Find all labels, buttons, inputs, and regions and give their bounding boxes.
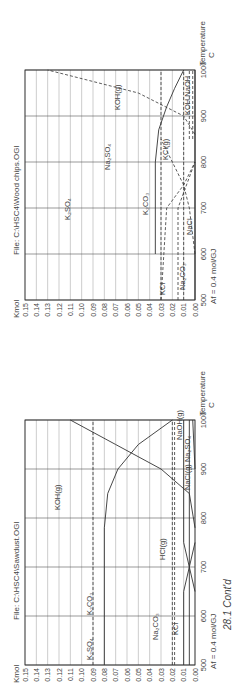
series-label: KOH(g)	[53, 484, 62, 510]
y-tick-label: 0.12	[56, 668, 63, 682]
figure-caption: 28.1 Cont'd	[222, 579, 233, 630]
series-label: Na₂CO₃	[151, 613, 160, 640]
x-axis-label: Temperature	[198, 21, 207, 66]
y-tick-label: 0.02	[169, 303, 176, 317]
figure-svg: 0.000.010.020.030.040.050.060.070.080.09…	[0, 0, 247, 690]
y-tick-label: 0.15	[22, 303, 29, 317]
series-label: KOH(g)	[113, 84, 122, 110]
af-note: Af = 0.4 mol/GJ	[209, 614, 218, 669]
x-tick-label: 700	[199, 561, 208, 574]
y-axis-label: Kmol	[12, 300, 21, 318]
x-tick-label: 600	[199, 248, 208, 261]
series-label: K₂CO₃	[141, 193, 150, 215]
wood-chips-chart: 0.000.010.020.030.040.050.060.070.080.09…	[12, 21, 218, 318]
series-label: KCl	[171, 623, 180, 635]
x-tick-label: 800	[199, 156, 208, 169]
y-tick-label: 0.09	[90, 303, 97, 317]
x-tick-label: 800	[199, 512, 208, 525]
series-label: KCl	[158, 283, 167, 295]
series-label: HCl(g)	[158, 538, 167, 560]
y-tick-label: 0.06	[124, 668, 131, 682]
y-tick-label: 0.05	[135, 668, 142, 682]
y-tick-label: 0.03	[158, 668, 165, 682]
series-label: K₂SO₄	[85, 638, 94, 660]
y-axis-label: Kmol	[12, 665, 21, 683]
y-tick-label: 0.08	[101, 668, 108, 682]
y-tick-label: 0.07	[112, 668, 119, 682]
series-label: NaOH(g)	[175, 409, 184, 440]
x-tick-label: 600	[199, 610, 208, 623]
y-tick-label: 0.01	[180, 303, 187, 317]
y-tick-label: 0.00	[192, 668, 199, 682]
series-label: KCl(g)	[161, 138, 170, 160]
y-tick-label: 0.01	[180, 668, 187, 682]
y-tick-label: 0.06	[124, 303, 131, 317]
series-label: NaCl(g) Na₂SO₄	[183, 436, 192, 490]
series-label: KOH NaOH	[183, 76, 192, 115]
chart-title: File: C:\HSC4\Wood chips.OGI	[12, 145, 21, 255]
x-tick-label: 900	[199, 463, 208, 476]
series-label: K₂CO₃	[85, 593, 94, 615]
y-tick-label: 0.05	[135, 303, 142, 317]
y-tick-label: 0.04	[146, 303, 153, 317]
y-tick-label: 0.13	[44, 303, 51, 317]
y-tick-label: 0.09	[90, 668, 97, 682]
series-label: Na₂SO₄	[103, 144, 112, 170]
y-tick-label: 0.07	[112, 303, 119, 317]
x-tick-label: 900	[199, 110, 208, 123]
series-label: NaCl	[185, 218, 194, 235]
y-tick-label: 0.14	[33, 303, 40, 317]
af-note: Af = 0.4 mol/GJ	[209, 249, 218, 304]
y-tick-label: 0.13	[44, 668, 51, 682]
chart-title: File: C:\HSC4\Sawdust.OGI	[12, 521, 21, 620]
x-axis-label: Temperature	[198, 371, 207, 416]
y-tick-label: 0.11	[67, 668, 74, 681]
y-tick-label: 0.15	[22, 668, 29, 682]
x-axis-unit: C	[207, 402, 216, 408]
y-tick-label: 0.02	[169, 668, 176, 682]
series-label: Na₂CO₃	[178, 263, 187, 290]
y-tick-label: 0.10	[78, 303, 85, 317]
y-tick-label: 0.00	[192, 303, 199, 317]
y-tick-label: 0.04	[146, 668, 153, 682]
y-tick-label: 0.12	[56, 303, 63, 317]
sawdust-chart: 0.000.010.020.030.040.050.060.070.080.09…	[12, 371, 218, 683]
y-tick-label: 0.10	[78, 668, 85, 682]
x-axis-unit: C	[207, 52, 216, 58]
x-tick-label: 500	[199, 659, 208, 672]
y-tick-label: 0.11	[67, 303, 74, 316]
y-tick-label: 0.14	[33, 668, 40, 682]
x-tick-label: 700	[199, 202, 208, 215]
y-tick-label: 0.03	[158, 303, 165, 317]
figure-canvas: 0.000.010.020.030.040.050.060.070.080.09…	[0, 0, 247, 690]
x-tick-label: 500	[199, 294, 208, 307]
series-label: K₂SO₄	[63, 198, 72, 220]
y-tick-label: 0.08	[101, 303, 108, 317]
